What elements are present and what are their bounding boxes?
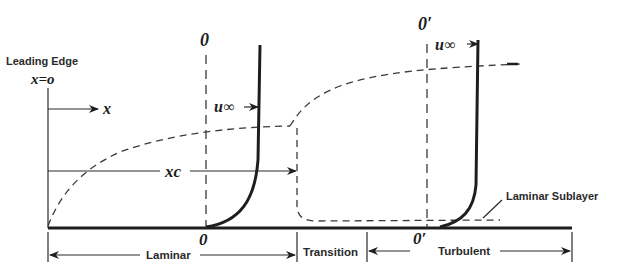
boundary-layer-diagram: Leading Edge x=o x 0 0 0′ 0′ u∞ u∞ xc La… [0,0,632,273]
transition-boundary-layer-edge [290,64,520,126]
region-turbulent-label: Turbulent [438,245,490,257]
leading-edge-label: Leading Edge [6,55,78,67]
station-o-bottom-label: 0 [199,230,208,249]
xc-label: xc [164,162,182,181]
region-transition-label: Transition [303,246,358,258]
laminar-velocity-profile [206,45,260,227]
region-laminar-label: Laminar [146,249,191,261]
u-inf-laminar-label: u∞ [214,98,234,115]
x-origin-label: x=o [30,71,55,87]
laminar-sublayer-label: Laminar Sublayer [506,190,599,202]
sublayer-leader-line [483,200,502,218]
u-inf-turbulent-label: u∞ [435,36,455,53]
x-axis-label: x [102,100,111,117]
station-o-top-label: 0 [200,30,209,50]
station-o-prime-bottom-label: 0′ [413,229,426,248]
station-o-prime-top-label: 0′ [418,14,432,34]
